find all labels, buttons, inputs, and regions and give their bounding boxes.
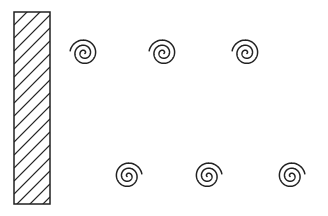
spiral-top-3-icon <box>232 40 257 63</box>
spiral-top-1-icon <box>70 40 95 63</box>
diagram-canvas <box>0 0 328 216</box>
wall-hatching <box>14 0 50 216</box>
spiral-bottom-1-icon <box>116 163 141 186</box>
spiral-bottom-2-icon <box>196 163 221 186</box>
spirals-group <box>70 40 305 186</box>
spiral-top-2-icon <box>149 40 174 63</box>
spiral-bottom-3-icon <box>279 163 304 186</box>
hatched-wall <box>14 0 50 216</box>
